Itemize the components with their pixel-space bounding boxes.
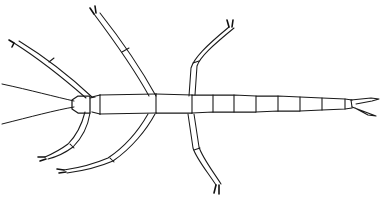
background [0, 0, 392, 210]
insect-line-drawing-canvas [0, 0, 392, 210]
stick-insect-illustration [0, 0, 392, 210]
